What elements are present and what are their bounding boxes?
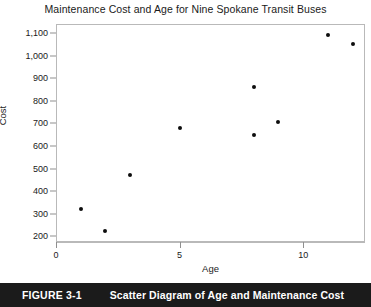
data-point <box>79 207 83 211</box>
data-point <box>128 173 132 177</box>
x-axis-tick-label: 10 <box>298 250 308 260</box>
y-axis: 2003004005006007008009001,0001,100 <box>0 24 56 242</box>
y-axis-tick-label: 300 <box>33 209 48 219</box>
y-axis-tick-label: 400 <box>33 186 48 196</box>
x-axis-tick-label: 5 <box>177 250 182 260</box>
chart-title: Maintenance Cost and Age for Nine Spokan… <box>0 3 371 15</box>
y-axis-tick-label: 800 <box>33 96 48 106</box>
figure-scatter-diagram: Maintenance Cost and Age for Nine Spokan… <box>0 0 371 307</box>
data-point <box>326 33 330 37</box>
x-axis-tick <box>180 242 181 248</box>
figure-caption-band: FIGURE 3-1 Scatter Diagram of Age and Ma… <box>0 283 371 307</box>
y-axis-tick-label: 500 <box>33 164 48 174</box>
x-axis-tick <box>303 242 304 248</box>
data-point <box>351 42 355 46</box>
y-axis-tick-label: 900 <box>33 73 48 83</box>
y-axis-tick-label: 700 <box>33 118 48 128</box>
y-axis-tick-label: 600 <box>33 141 48 151</box>
x-axis-line <box>56 242 365 243</box>
data-point <box>276 120 280 124</box>
x-axis-tick <box>56 242 57 248</box>
y-axis-title: Cost <box>0 106 8 126</box>
y-axis-tick-label: 1,100 <box>25 28 48 38</box>
data-point <box>252 85 256 89</box>
x-axis: Age 0510 <box>56 242 365 282</box>
data-point <box>252 133 256 137</box>
plot-area <box>56 24 365 242</box>
data-point <box>178 126 182 130</box>
y-axis-tick-label: 1,000 <box>25 51 48 61</box>
figure-number: FIGURE 3-1 <box>22 289 82 301</box>
figure-caption-text: Scatter Diagram of Age and Maintenance C… <box>110 289 344 301</box>
data-point <box>103 229 107 233</box>
x-axis-title: Age <box>56 263 365 274</box>
y-axis-tick-label: 200 <box>33 231 48 241</box>
x-axis-tick-label: 0 <box>53 250 58 260</box>
